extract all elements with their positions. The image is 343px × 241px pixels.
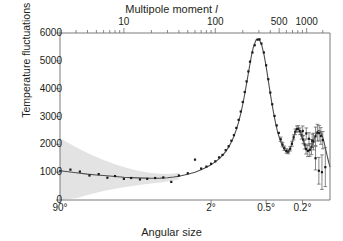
data-point	[238, 119, 240, 121]
y-tick-label: 4000	[22, 84, 62, 94]
data-point	[123, 178, 125, 180]
data-point	[291, 143, 293, 145]
data-point	[285, 150, 287, 152]
data-point	[251, 51, 253, 53]
data-point	[244, 91, 246, 93]
data-point	[130, 177, 132, 179]
data-point	[289, 148, 291, 150]
data-point	[263, 51, 265, 53]
data-point	[260, 42, 262, 44]
data-point	[314, 157, 316, 159]
cmb-power-spectrum-figure: Multipole moment l Temperature fluctuati…	[0, 0, 343, 241]
data-point	[302, 130, 304, 132]
top-tick-label: 100	[207, 17, 224, 27]
data-point	[324, 166, 326, 168]
data-point	[228, 145, 230, 147]
data-point	[225, 149, 227, 151]
data-point	[205, 166, 207, 168]
data-point	[258, 38, 260, 40]
data-point	[249, 61, 251, 63]
data-point	[88, 174, 90, 176]
data-point	[187, 172, 189, 174]
data-point	[273, 115, 275, 117]
data-point	[178, 174, 180, 176]
data-point	[235, 127, 237, 129]
data-point	[139, 178, 141, 180]
data-point	[154, 177, 156, 179]
data-point	[106, 177, 108, 179]
data-point	[281, 144, 283, 146]
data-point	[280, 138, 282, 140]
data-point	[210, 163, 212, 165]
data-point	[245, 80, 247, 82]
data-point	[271, 103, 273, 105]
y-tick-label: 5000	[22, 56, 62, 66]
data-point	[200, 167, 202, 169]
data-point	[194, 159, 196, 161]
data-point	[265, 64, 267, 66]
data-point	[256, 39, 258, 41]
data-point	[269, 91, 271, 93]
data-point	[318, 170, 320, 172]
data-point	[162, 176, 164, 178]
data-point	[254, 44, 256, 46]
data-point	[247, 70, 249, 72]
data-point	[276, 124, 278, 126]
data-point	[221, 154, 223, 156]
data-point	[146, 178, 148, 180]
data-point	[311, 140, 313, 142]
data-point	[69, 169, 71, 171]
data-point	[318, 132, 320, 134]
data-point	[214, 160, 216, 162]
data-point	[322, 139, 324, 141]
bottom-tick-label: 2°	[206, 203, 216, 213]
data-point	[98, 173, 100, 175]
data-point	[242, 101, 244, 103]
y-tick-label: 1000	[22, 167, 62, 177]
data-point	[114, 175, 116, 177]
data-point	[278, 132, 280, 134]
data-point	[267, 78, 269, 80]
data-point	[240, 110, 242, 112]
model-curve	[60, 39, 330, 178]
cosmic-variance-band	[60, 138, 179, 200]
data-point	[321, 171, 323, 173]
data-point	[233, 134, 235, 136]
y-tick-label: 6000	[22, 28, 62, 38]
y-tick-label: 3000	[22, 112, 62, 122]
top-tick-label: 10	[118, 17, 129, 27]
top-tick-label: 500	[271, 17, 288, 27]
bottom-tick-label: 0.2°	[294, 203, 312, 213]
data-point	[309, 149, 311, 151]
data-point	[305, 148, 307, 150]
data-point	[308, 138, 310, 140]
data-point	[79, 171, 81, 173]
data-point	[218, 156, 220, 158]
top-tick-label: 1000	[296, 17, 318, 27]
data-point	[307, 150, 309, 152]
data-point	[305, 132, 307, 134]
bottom-tick-label: 0.5°	[257, 203, 275, 213]
data-point	[314, 135, 316, 137]
data-point	[170, 181, 172, 183]
y-tick-label: 0	[22, 195, 62, 205]
data-point	[230, 140, 232, 142]
y-tick-label: 2000	[22, 139, 62, 149]
data-point	[293, 136, 295, 138]
data-point	[320, 135, 322, 137]
